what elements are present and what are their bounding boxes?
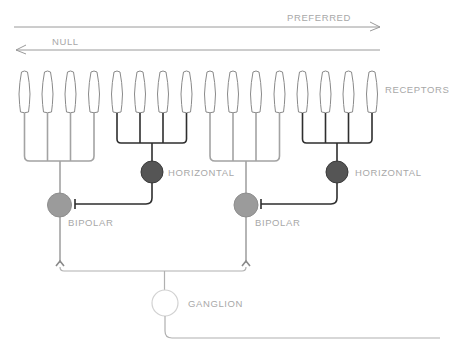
synapse-caret-2-icon <box>242 261 250 266</box>
null-label: NULL <box>52 36 79 47</box>
ganglion-cell <box>152 290 178 316</box>
excitatory-synapses <box>56 261 250 290</box>
bipolar-1-label: BIPOLAR <box>68 217 113 228</box>
inhibitory-synapse-1 <box>75 182 152 204</box>
receptors-row: RECEPTORS <box>19 71 449 113</box>
bipolar-cell-2 <box>234 193 258 217</box>
bipolar-2-label: BIPOLAR <box>255 217 300 228</box>
horizontal-cell-1 <box>141 161 163 183</box>
null-direction-arrow: NULL <box>16 36 380 54</box>
bipolar-2-dendrites <box>210 113 280 263</box>
inhibitory-synapse-2 <box>261 182 337 204</box>
bipolar-cell-1 <box>48 193 72 217</box>
receptor-5 <box>112 71 123 113</box>
receptor-10 <box>228 71 239 113</box>
preferred-label: PREFERRED <box>287 12 351 23</box>
receptor-1 <box>19 71 30 113</box>
receptor-16 <box>367 71 378 113</box>
ganglion-axon <box>165 316 440 338</box>
receptor-13 <box>297 71 308 113</box>
horizontal-1-label: HORIZONTAL <box>168 167 235 178</box>
receptors-label: RECEPTORS <box>385 84 449 95</box>
ganglion-label: GANGLION <box>188 298 243 309</box>
receptor-14 <box>320 71 331 113</box>
receptor-11 <box>251 71 262 113</box>
receptor-15 <box>343 71 354 113</box>
receptor-4 <box>89 71 100 113</box>
receptor-9 <box>205 71 216 113</box>
preferred-direction-arrow: PREFERRED <box>14 12 380 31</box>
horizontal-2-label: HORIZONTAL <box>355 167 422 178</box>
receptor-3 <box>65 71 76 113</box>
bipolar-1-dendrites <box>25 113 95 263</box>
retina-circuit-diagram: PREFERRED NULL RECEPTORS <box>0 0 457 352</box>
horizontal-cell-2 <box>326 161 348 183</box>
receptor-2 <box>42 71 53 113</box>
synapse-caret-1-icon <box>56 261 64 266</box>
receptor-7 <box>158 71 169 113</box>
receptor-6 <box>135 71 146 113</box>
receptor-12 <box>274 71 285 113</box>
receptor-8 <box>181 71 192 113</box>
